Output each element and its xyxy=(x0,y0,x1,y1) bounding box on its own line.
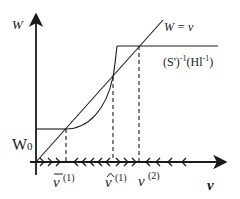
marker-label-v2: v (2) xyxy=(138,170,160,189)
marker-label-vbar1: v (1) xyxy=(53,172,75,190)
diagonal-line xyxy=(36,20,163,162)
w0-label: W0 xyxy=(12,136,33,153)
diagonal-label: W = v xyxy=(164,20,194,34)
svg-text:(1): (1) xyxy=(63,172,75,184)
phase-diagram: W v W0 W = v (S')-1(Hl-1) v (1) v (1) v … xyxy=(0,0,240,199)
svg-text:v: v xyxy=(53,174,60,190)
svg-text:(2): (2) xyxy=(148,170,160,182)
marker-label-vhat1: v (1) xyxy=(105,172,127,190)
plateau-label: (S')-1(Hl-1) xyxy=(163,54,213,69)
y-axis-label: W xyxy=(12,17,24,32)
response-curve xyxy=(66,46,117,129)
svg-text:(1): (1) xyxy=(115,172,127,184)
x-axis-label: v xyxy=(207,177,214,193)
svg-text:v: v xyxy=(138,173,145,189)
svg-text:v: v xyxy=(105,174,112,190)
